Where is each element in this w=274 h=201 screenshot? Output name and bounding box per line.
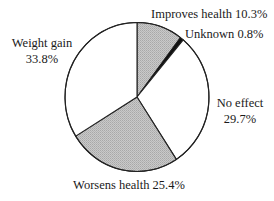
pie-chart: Improves health 10.3%Unknown 0.8%No effe…	[0, 0, 274, 201]
label-weight-gain-value: 33.8%	[26, 52, 58, 66]
label-no-effect-name: No effect	[217, 96, 264, 110]
label-no-effect-value: 29.7%	[224, 112, 256, 126]
pie-slices	[65, 23, 209, 172]
label-improves-health: Improves health 10.3%	[151, 7, 267, 21]
label-weight-gain-name: Weight gain	[12, 36, 73, 50]
label-worsens-health: Worsens health 25.4%	[73, 178, 185, 192]
label-unknown: Unknown 0.8%	[185, 27, 263, 41]
